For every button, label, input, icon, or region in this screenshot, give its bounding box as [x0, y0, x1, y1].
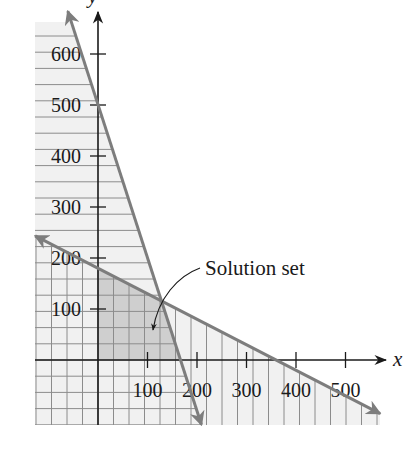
y-axis-label: y	[86, 0, 98, 8]
shaded-regions	[35, 22, 380, 425]
y-tick-label: 100	[51, 298, 81, 320]
y-tick-label: 500	[51, 94, 81, 116]
y-tick-label: 400	[51, 145, 81, 167]
x-tick-label: 300	[232, 379, 262, 401]
inequality-graph: 100200300400500100200300400500600 x y So…	[0, 0, 408, 449]
x-tick-label: 100	[133, 379, 163, 401]
y-tick-label: 300	[51, 196, 81, 218]
solution-set-label: Solution set	[205, 256, 305, 280]
x-tick-label: 400	[281, 379, 311, 401]
y-tick-label: 600	[51, 43, 81, 65]
x-axis-label: x	[392, 347, 403, 371]
